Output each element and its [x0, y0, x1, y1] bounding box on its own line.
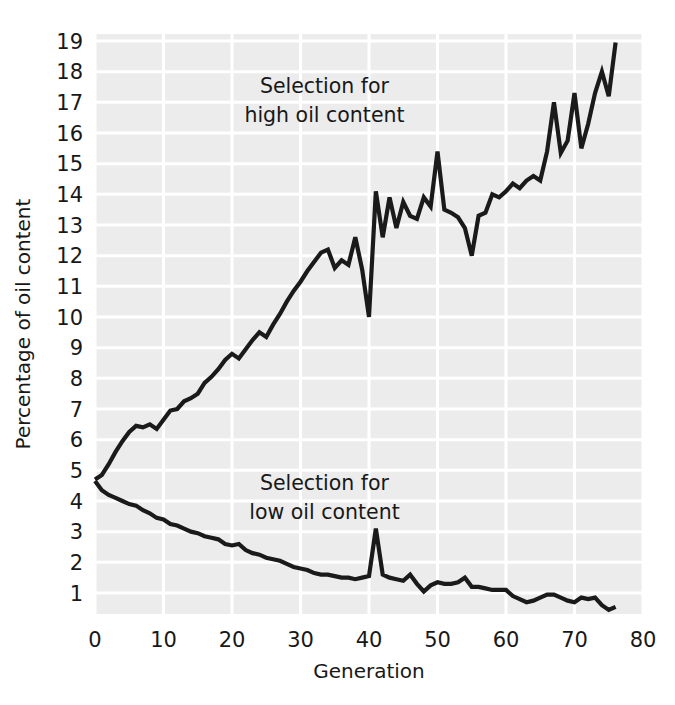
x-tick-label: 50 [424, 628, 451, 652]
y-tick-label: 13 [56, 214, 83, 238]
y-tick-label: 9 [70, 336, 83, 360]
y-tick-label: 6 [70, 428, 83, 452]
y-tick-label: 2 [70, 551, 83, 575]
y-tick-label: 12 [56, 244, 83, 268]
y-tick-label: 19 [56, 30, 83, 54]
y-tick-label: 11 [56, 275, 83, 299]
x-tick-label: 80 [630, 628, 657, 652]
x-tick-label: 60 [493, 628, 520, 652]
y-tick-label: 7 [70, 398, 83, 422]
oil-content-selection-chart: 12345678910111213141516171819 0102030405… [0, 0, 675, 705]
x-tick-label: 70 [561, 628, 588, 652]
y-tick-label: 16 [56, 122, 83, 146]
y-tick-label: 3 [70, 520, 83, 544]
y-tick-label: 14 [56, 183, 83, 207]
x-axis-tick-labels: 01020304050607080 [88, 628, 656, 652]
x-axis-title: Generation [313, 659, 425, 683]
y-axis-title: Percentage of oil content [11, 198, 35, 449]
low-oil-annotation-line1: Selection for [260, 471, 390, 495]
y-tick-label: 15 [56, 152, 83, 176]
y-tick-label: 18 [56, 60, 83, 84]
y-tick-label: 1 [70, 582, 83, 606]
high-oil-annotation-line1: Selection for [260, 74, 390, 98]
high-oil-annotation-line2: high oil content [244, 103, 404, 127]
x-tick-label: 30 [287, 628, 314, 652]
y-tick-label: 4 [70, 490, 83, 514]
x-tick-label: 0 [88, 628, 101, 652]
x-tick-label: 10 [150, 628, 177, 652]
x-tick-label: 20 [219, 628, 246, 652]
y-tick-label: 10 [56, 306, 83, 330]
y-tick-label: 5 [70, 459, 83, 483]
y-tick-label: 17 [56, 91, 83, 115]
y-tick-label: 8 [70, 367, 83, 391]
x-tick-label: 40 [356, 628, 383, 652]
low-oil-annotation-line2: low oil content [249, 500, 399, 524]
chart-canvas: 12345678910111213141516171819 0102030405… [0, 0, 675, 705]
